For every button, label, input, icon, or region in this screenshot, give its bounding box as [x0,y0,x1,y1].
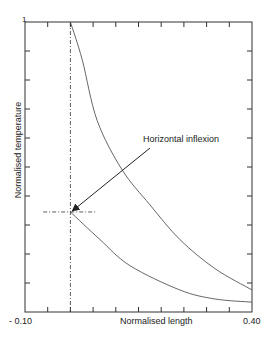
x-tick-label-min: - 0.10 [9,316,32,326]
upper-curve [70,22,252,290]
annotation-arrow [72,148,150,211]
lower-curve [70,212,252,302]
reference-lines [43,22,95,312]
axis-ticks [25,22,252,312]
plot-frame [25,22,252,312]
y-axis-label: Normalised temperature [13,102,23,199]
chart-canvas [0,0,270,345]
x-axis-label: Normalised length [120,316,193,326]
data-series [70,22,252,302]
x-tick-label-max: 0.40 [243,316,261,326]
y-tick-label-max: 1 [22,15,26,24]
annotation-label: Horizontal inflexion [143,134,219,144]
